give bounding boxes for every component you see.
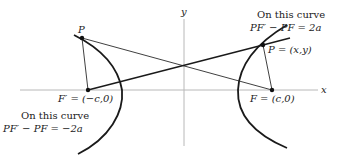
left-focus-label: F′ = (−c,0): [57, 93, 113, 104]
left-p-label: P: [77, 24, 85, 35]
right-focus-label: F = (c,0): [249, 93, 295, 104]
right-focus-point: [270, 88, 274, 92]
right-annotation-line1: On this curve: [257, 9, 325, 20]
y-axis-label: y: [180, 6, 187, 17]
left-focus-point: [86, 88, 90, 92]
hyperbola-diagram: x y P P = (x,y) F′ = (−c,0) F = (c,0) On…: [0, 0, 337, 156]
right-p-label: P = (x,y): [267, 44, 312, 55]
left-annotation-line1: On this curve: [21, 110, 89, 121]
left-p-to-left-focus-line: [82, 38, 88, 90]
x-axis-label: x: [321, 84, 327, 95]
right-p-point: [261, 43, 265, 47]
left-annotation-line2: PF′ − PF = −2a: [2, 123, 83, 134]
right-annotation-line2: PF′ − PF = 2a: [249, 22, 321, 33]
left-p-point: [80, 36, 84, 40]
